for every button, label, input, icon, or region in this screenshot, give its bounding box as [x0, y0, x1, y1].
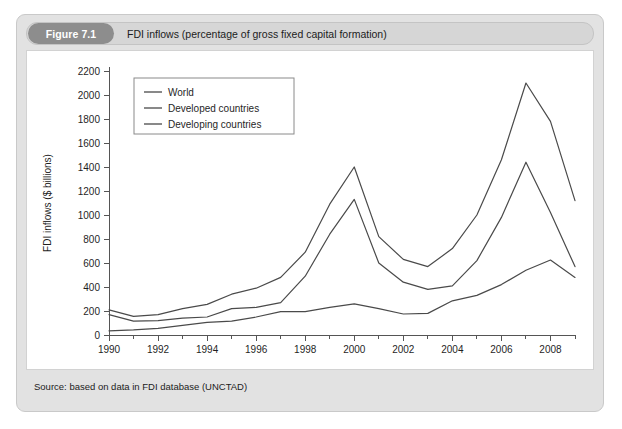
- figure-caption-text: FDI inflows (percentage of gross fixed c…: [127, 28, 387, 40]
- figure-source-note: Source: based on data in FDI database (U…: [34, 381, 247, 392]
- x-tick-label: 2004: [441, 344, 464, 355]
- x-tick-label: 1996: [245, 344, 268, 355]
- y-tick-label: 400: [83, 282, 100, 293]
- y-tick-label: 600: [83, 258, 100, 269]
- x-tick-label: 1998: [294, 344, 317, 355]
- y-tick-label: 1200: [78, 186, 101, 197]
- y-tick-label: 200: [83, 306, 100, 317]
- legend-label-developing-countries: Developing countries: [168, 119, 261, 130]
- y-tick-label: 1600: [78, 138, 101, 149]
- y-tick-label: 1000: [78, 210, 101, 221]
- y-axis: 0200400600800100012001400160018002000220…: [78, 66, 109, 341]
- line-chart: 0200400600800100012001400160018002000220…: [27, 51, 593, 369]
- y-tick-label: 2000: [78, 90, 101, 101]
- y-tick-label: 0: [94, 330, 100, 341]
- legend-label-developed-countries: Developed countries: [168, 103, 259, 114]
- figure-card: Figure 7.1 FDI inflows (percentage of gr…: [16, 14, 604, 412]
- chart-plot-panel: 0200400600800100012001400160018002000220…: [26, 50, 594, 370]
- x-tick-label: 2006: [490, 344, 513, 355]
- x-tick-label: 1990: [98, 344, 121, 355]
- x-axis: 1990199219941996199820002002200420062008: [98, 335, 575, 355]
- x-tick-label: 2000: [343, 344, 366, 355]
- x-tick-label: 1992: [147, 344, 170, 355]
- y-tick-label: 800: [83, 234, 100, 245]
- y-tick-label: 1400: [78, 162, 101, 173]
- x-tick-label: 1994: [196, 344, 219, 355]
- y-tick-label: 2200: [78, 66, 101, 77]
- x-tick-label: 2002: [392, 344, 415, 355]
- screenshot-root: Figure 7.1 FDI inflows (percentage of gr…: [0, 0, 622, 429]
- x-tick-label: 2008: [539, 344, 562, 355]
- figure-caption-bar: Figure 7.1 FDI inflows (percentage of gr…: [26, 22, 594, 45]
- figure-number-badge: Figure 7.1: [28, 23, 114, 44]
- y-tick-label: 1800: [78, 114, 101, 125]
- series-line-developing-countries: [109, 260, 575, 331]
- chart-legend: WorldDeveloped countriesDeveloping count…: [134, 78, 294, 134]
- legend-label-world: World: [168, 87, 194, 98]
- y-axis-title: FDI inflows ($ billions): [42, 154, 53, 252]
